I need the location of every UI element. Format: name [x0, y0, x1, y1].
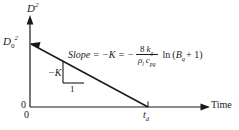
d-squared-law-figure: D2 D02 0 0 td Time −K 1 Slope = −K = − 8… [0, 0, 239, 130]
y-intercept-label: D02 [3, 36, 18, 47]
x-axis-tick-label-td: td [143, 110, 149, 120]
slope-equation-fraction: 8kg ρlcpg [136, 44, 158, 66]
logarithm-term: ln(Bq+ 1) [160, 49, 203, 60]
log-close-paren: ) [199, 49, 202, 60]
log-plus-one: + 1 [186, 49, 199, 60]
y-intercept-symbol: D [3, 35, 11, 47]
y-axis-label-exponent: 2 [35, 1, 39, 9]
slope-equation-lead: Slope = −K = − [68, 49, 134, 60]
y-axis [27, 15, 34, 107]
td-subscript: d [146, 115, 149, 122]
slope-equation: Slope = −K = − 8kg ρlcpg ln(Bq+ 1) [68, 44, 203, 66]
x-axis-zero-label: 0 [24, 110, 29, 120]
y-axis-label: D2 [27, 3, 38, 14]
x-axis-label: Time [211, 100, 232, 110]
slope-triangle-run-label: 1 [70, 85, 75, 94]
denominator-subscript-pg: pg [150, 61, 156, 67]
y-axis-label-text: D [27, 2, 35, 14]
numerator-coefficient: 8 [140, 44, 145, 54]
x-axis [30, 104, 210, 111]
fraction-denominator: ρlcpg [136, 55, 158, 65]
y-intercept-exponent: 2 [14, 34, 18, 42]
y-intercept-subscript: 0 [11, 42, 15, 50]
log-function-name: ln [163, 49, 171, 60]
fraction-numerator: 8kg [138, 44, 155, 54]
log-subscript-q: q [182, 55, 185, 62]
denominator-subscript-l: l [142, 61, 144, 67]
slope-triangle-rise-label: −K [48, 68, 61, 78]
